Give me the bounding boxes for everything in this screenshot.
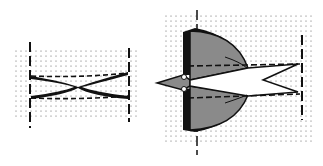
joint-top [182, 75, 187, 80]
joint-bottom [182, 87, 187, 92]
dot-grid-left [12, 48, 140, 120]
diagram-canvas [0, 0, 323, 166]
right-panel [157, 10, 313, 155]
left-panel [12, 42, 140, 128]
